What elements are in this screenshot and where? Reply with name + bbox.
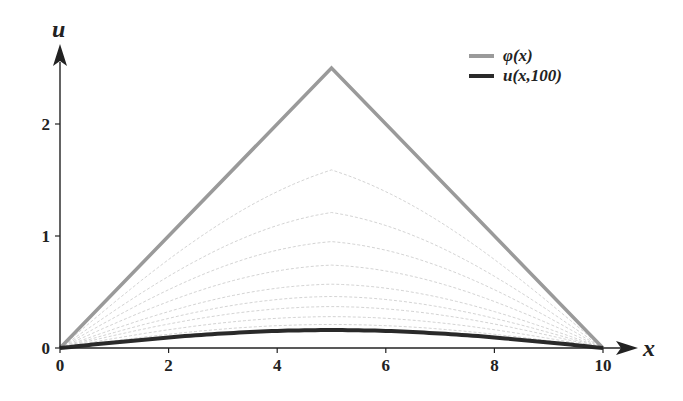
x-tick-label: 6 <box>382 356 391 375</box>
legend: φ(x) u(x,100) <box>469 46 562 85</box>
y-ticks: 012 <box>42 115 61 358</box>
y-tick-label: 2 <box>42 115 51 134</box>
intermediate-curve <box>60 325 603 349</box>
y-tick-label: 1 <box>42 227 51 246</box>
x-tick-label: 10 <box>595 356 612 375</box>
legend-label-phi: φ(x) <box>503 46 533 65</box>
phi-series-line <box>60 68 603 348</box>
legend-label-u100: u(x,100) <box>503 66 562 85</box>
intermediate-curves <box>60 170 603 348</box>
y-tick-label: 0 <box>42 339 51 358</box>
chart: x u 0246810 012 φ(x) u(x,100) <box>0 0 683 401</box>
x-tick-label: 0 <box>56 356 65 375</box>
x-ticks: 0246810 <box>56 348 612 375</box>
x-tick-label: 2 <box>164 356 173 375</box>
y-axis-label: u <box>52 16 65 42</box>
x-tick-label: 8 <box>490 356 499 375</box>
x-tick-label: 4 <box>273 356 282 375</box>
u100-series-line <box>60 330 603 348</box>
x-axis-label: x <box>642 335 655 361</box>
intermediate-curve <box>60 170 603 348</box>
intermediate-curve <box>60 317 603 348</box>
